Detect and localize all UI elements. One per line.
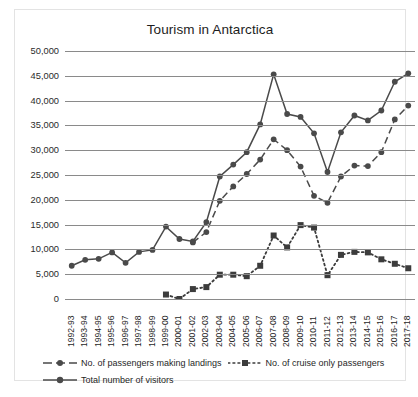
gridline [65,51,415,52]
legend-item-landings[interactable]: No. of passengers making landings [43,358,222,368]
data-point [271,233,277,239]
data-point [365,163,371,169]
data-point [96,256,102,262]
y-tick-label: 35,000 [31,120,59,130]
gridline [65,274,415,275]
data-point [123,260,129,266]
gridline [65,175,415,176]
chart-container: Tourism in Antarctica 05,00010,00015,000… [14,9,406,381]
data-point [365,118,371,124]
legend-item-total-visitors[interactable]: Total number of visitors [43,375,174,385]
data-point [203,229,209,235]
series-line [166,225,408,299]
data-point [230,162,236,168]
legend-key-solid-circle-icon [43,375,77,385]
data-point [352,113,358,119]
chart-title: Tourism in Antarctica [15,22,405,37]
legend-item-cruise-only[interactable]: No. of cruise only passengers [228,358,385,368]
data-point [298,114,304,120]
data-point [405,103,411,109]
data-point [392,261,398,267]
gridline [65,101,415,102]
legend-row-1: No. of passengers making landings No. of… [43,354,403,371]
data-point [177,236,183,242]
y-tick-label: 45,000 [31,71,59,81]
legend-label-landings: No. of passengers making landings [81,358,222,368]
data-point [405,265,411,271]
data-point [257,263,263,269]
data-point [325,272,331,278]
data-point [392,79,398,85]
gridline [65,76,415,77]
data-point [257,157,263,163]
y-tick-label: 0 [54,294,59,304]
data-point [190,239,196,245]
data-point [298,164,304,170]
data-point [284,111,290,117]
x-axis-labels: 1992-931993-941994-951995-961996-971997-… [65,301,415,349]
legend-key-dotted-square-icon [228,358,262,368]
gridline [65,225,415,226]
y-tick-label: 10,000 [31,244,59,254]
data-point [378,256,384,262]
legend-label-cruise-only: No. of cruise only passengers [266,358,385,368]
data-point [352,163,358,169]
y-tick-label: 40,000 [31,96,59,106]
data-point [311,130,317,136]
data-point [338,252,344,258]
data-point [82,257,88,263]
data-point [311,193,317,199]
gridline [65,150,415,151]
data-point [230,184,236,190]
data-point [271,136,277,142]
data-point [244,171,250,177]
data-point [338,129,344,135]
y-tick-label: 20,000 [31,195,59,205]
gridline [65,125,415,126]
gridline [65,200,415,201]
chart-legend: No. of passengers making landings No. of… [43,354,403,388]
data-point [163,292,169,298]
y-tick-label: 50,000 [31,46,59,56]
data-point [392,117,398,123]
data-point [69,263,75,269]
gridline [65,299,415,300]
y-tick-label: 15,000 [31,220,59,230]
data-point [190,286,196,292]
legend-row-2: Total number of visitors [43,371,403,388]
series-2 [163,222,411,299]
y-tick-label: 5,000 [36,269,59,279]
data-point [203,284,209,290]
y-tick-label: 25,000 [31,170,59,180]
legend-label-total-visitors: Total number of visitors [81,375,174,385]
y-tick-label: 30,000 [31,145,59,155]
y-axis-labels: 05,00010,00015,00020,00025,00030,00035,0… [15,51,59,299]
gridline [65,249,415,250]
data-point [378,108,384,114]
legend-key-dashed-circle-icon [43,358,77,368]
plot-area [65,51,415,299]
series-line [72,73,409,265]
